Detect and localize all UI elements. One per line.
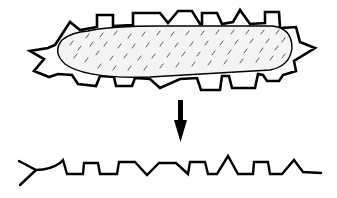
toothed-organism [30,10,315,90]
down-arrow-icon [174,100,187,142]
zigzag-outline-trace [19,156,321,175]
zigzag-outline-tail [20,170,36,185]
body-oval [58,26,292,77]
